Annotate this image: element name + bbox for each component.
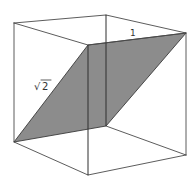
edge-back-bottom-right [106, 126, 186, 155]
edge-bottom-left [14, 142, 88, 175]
edge-bottom-right [88, 155, 186, 175]
cube-diagram: 1 √ 2 [0, 0, 196, 188]
sqrt-radicand: 2 [42, 81, 48, 92]
label-diagonal-edge: √ 2 [34, 80, 51, 92]
edge-back-top [14, 15, 106, 23]
edge-left-top [14, 23, 88, 45]
sqrt-symbol: √ [34, 81, 41, 92]
edge-back-right-top [106, 15, 186, 33]
label-top-edge: 1 [130, 28, 136, 38]
